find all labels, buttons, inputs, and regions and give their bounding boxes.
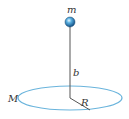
label-R: R — [80, 97, 89, 108]
label-b: b — [73, 67, 79, 78]
label-m: m — [67, 4, 76, 15]
point-mass — [65, 17, 75, 27]
diagram-canvas: m b M R — [0, 0, 129, 119]
label-M: M — [7, 93, 19, 104]
